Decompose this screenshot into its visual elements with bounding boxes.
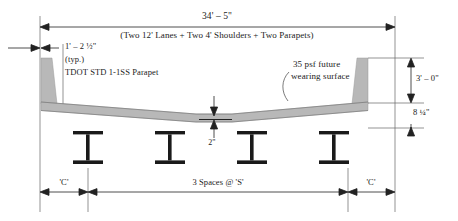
overall-width-description-label: (Two 12' Lanes + Two 4' Shoulders + Two … xyxy=(120,31,313,41)
girder-3-top-flange xyxy=(237,131,267,134)
girder-4-bottom-flange xyxy=(319,160,349,164)
parapet-typ-label: (typ.) xyxy=(65,55,84,64)
wearing-surface-label-line2: wearing surface xyxy=(291,72,350,82)
wearing-surface-label-line1: 35 psf future xyxy=(293,60,340,70)
deck-thickness-dimension xyxy=(368,124,424,136)
girder-1-bottom-flange xyxy=(73,160,103,164)
girder-2-top-flange xyxy=(155,131,185,134)
overhang-left-dimension xyxy=(40,189,88,196)
right-parapet-body xyxy=(352,58,368,104)
parapet-width-arrowhead xyxy=(41,45,50,52)
parapet-height-arrowhead-bottom xyxy=(407,94,414,103)
girder-4-top-flange xyxy=(319,131,349,134)
girder-spacing-label: 3 Spaces @ 'S' xyxy=(192,178,243,187)
girder-4-web xyxy=(332,134,336,160)
girder-2-bottom-flange xyxy=(155,160,185,164)
girder-1-top-flange xyxy=(73,131,103,134)
overhang-left-arrowhead-right xyxy=(79,189,88,196)
parapet-width-label: 1' – 2 ½" xyxy=(65,42,96,51)
girder-2-web xyxy=(168,134,172,160)
left-edge-pointer-head xyxy=(31,45,40,52)
overhang-right-label: 'C' xyxy=(366,178,375,187)
girder-spacing-arrowhead-right xyxy=(339,189,348,196)
overhang-left-label: 'C' xyxy=(59,178,68,187)
arrowhead-left xyxy=(40,24,49,31)
overhang-right-dimension xyxy=(348,189,395,196)
wearing-surface-leader xyxy=(283,72,289,101)
parapet-width-dimension xyxy=(41,45,59,52)
arrowhead-right xyxy=(386,24,395,31)
parapet-height-arrowhead-top xyxy=(407,58,414,67)
left-edge-pointer-arrow xyxy=(8,45,40,52)
girder-1-web xyxy=(86,134,90,160)
girder-3-bottom-flange xyxy=(237,160,267,164)
girder-4 xyxy=(319,131,349,164)
wearing-surface-leader-line xyxy=(283,72,289,101)
parapet-standard-label: TDOT STD 1-1SS Parapet xyxy=(65,68,158,77)
girder-1 xyxy=(73,131,103,164)
parapet-height-label: 3' – 0" xyxy=(416,74,439,83)
girder-2 xyxy=(155,131,185,164)
overhang-left-arrowhead-left xyxy=(40,189,49,196)
girder-spacing-dimension xyxy=(88,189,348,196)
overall-width-label: 34' – 5" xyxy=(202,11,232,21)
girder-spacing-arrowhead-left xyxy=(88,189,97,196)
girder-3 xyxy=(237,131,267,164)
crown-dimension-label: 2" xyxy=(208,139,215,148)
deck-thickness-label: 8 ¼" xyxy=(413,108,430,117)
overhang-right-arrowhead-right xyxy=(386,189,395,196)
girder-3-web xyxy=(250,134,254,160)
left-parapet-body xyxy=(41,58,57,104)
overhang-right-arrowhead-left xyxy=(348,189,357,196)
